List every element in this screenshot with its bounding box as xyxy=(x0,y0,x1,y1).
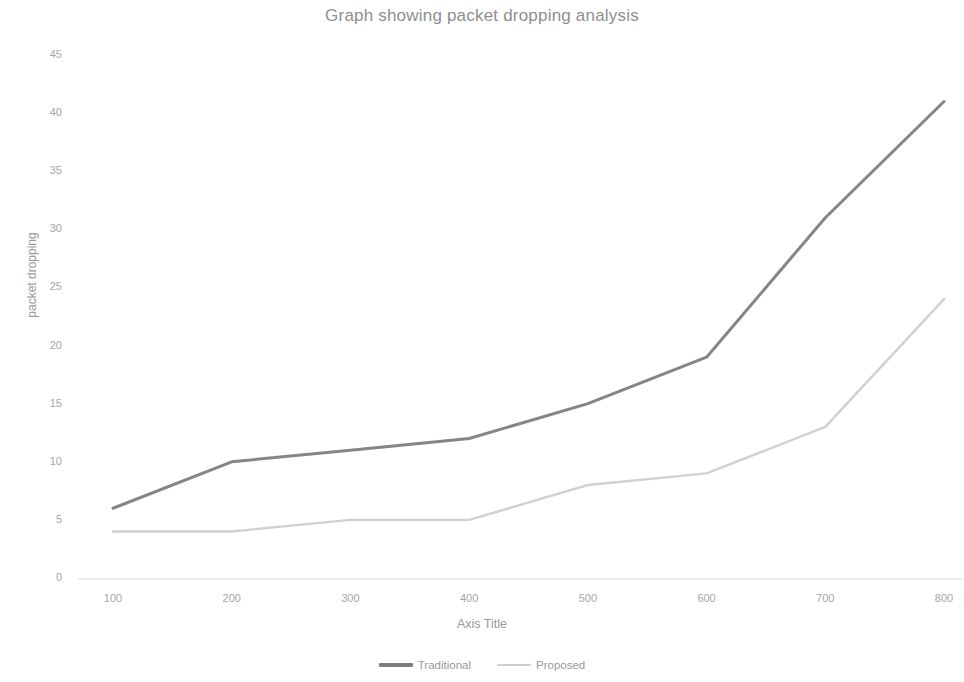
y-axis-tick-label: 45 xyxy=(18,48,62,60)
y-axis-tick-label: 20 xyxy=(18,339,62,351)
y-axis-tick-label: 25 xyxy=(18,280,62,292)
legend-item-traditional[interactable]: Traditional xyxy=(379,659,471,671)
x-axis-tick-labels: 100200300400500600700800 xyxy=(0,592,964,612)
legend-swatch-icon xyxy=(379,663,413,666)
x-axis-tick-label: 400 xyxy=(439,592,499,604)
series-line-traditional xyxy=(113,101,944,508)
y-axis-tick-label: 40 xyxy=(18,106,62,118)
y-axis-tick-label: 0 xyxy=(18,571,62,583)
y-axis-tick-label: 30 xyxy=(18,222,62,234)
x-axis-tick-label: 200 xyxy=(202,592,262,604)
y-axis-tick-labels: 454035302520151050 xyxy=(0,0,62,682)
x-axis-tick-label: 100 xyxy=(83,592,143,604)
y-axis-tick-label: 10 xyxy=(18,455,62,467)
x-axis-tick-label: 600 xyxy=(677,592,737,604)
x-axis-tick-label: 300 xyxy=(320,592,380,604)
series-line-proposed xyxy=(113,299,944,531)
chart-title: Graph showing packet dropping analysis xyxy=(0,6,964,26)
x-axis-tick-label: 700 xyxy=(795,592,855,604)
y-axis-tick-label: 35 xyxy=(18,164,62,176)
chart-container: Graph showing packet dropping analysis p… xyxy=(0,0,964,682)
chart-legend: TraditionalProposed xyxy=(0,659,964,671)
x-axis-title: Axis Title xyxy=(0,617,964,631)
x-axis-tick-label: 800 xyxy=(914,592,964,604)
legend-label: Proposed xyxy=(536,659,585,671)
plot-area xyxy=(0,0,964,682)
legend-item-proposed[interactable]: Proposed xyxy=(497,659,585,671)
y-axis-tick-label: 15 xyxy=(18,397,62,409)
legend-swatch-icon xyxy=(497,664,531,667)
x-axis-tick-label: 500 xyxy=(558,592,618,604)
legend-label: Traditional xyxy=(418,659,471,671)
y-axis-tick-label: 5 xyxy=(18,513,62,525)
